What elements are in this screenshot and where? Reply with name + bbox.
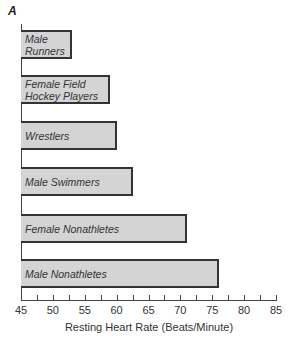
- x-tick-label: 55: [79, 304, 91, 316]
- x-tick: [196, 295, 197, 300]
- x-tick: [228, 295, 229, 300]
- x-tick: [69, 295, 70, 300]
- x-tick-label: 60: [111, 304, 123, 316]
- x-tick-label: 75: [206, 304, 218, 316]
- x-tick: [53, 295, 54, 300]
- bar-label: Wrestlers: [25, 130, 69, 142]
- x-tick: [21, 295, 22, 300]
- x-tick: [101, 295, 102, 300]
- x-tick: [85, 295, 86, 300]
- bar-label: Female Nonathletes: [25, 223, 119, 235]
- x-tick: [276, 295, 277, 300]
- panel-label: A: [8, 4, 17, 18]
- bar: Male Swimmers: [21, 167, 133, 196]
- x-axis-line: [21, 300, 277, 301]
- x-tick-label: 65: [142, 304, 154, 316]
- x-tick: [180, 295, 181, 300]
- x-tick-label: 50: [47, 304, 59, 316]
- bar-label: MaleRunners: [25, 33, 65, 57]
- x-tick: [117, 295, 118, 300]
- bar-label: Male Nonathletes: [25, 268, 107, 280]
- x-tick: [244, 295, 245, 300]
- x-tick: [149, 295, 150, 300]
- bar: Female FieldHockey Players: [21, 75, 110, 104]
- bar: Wrestlers: [21, 121, 117, 150]
- bar-label: Female FieldHockey Players: [25, 78, 98, 102]
- x-tick-label: 85: [270, 304, 282, 316]
- x-tick: [164, 295, 165, 300]
- bar: Male Nonathletes: [21, 259, 219, 288]
- x-tick: [37, 295, 38, 300]
- x-tick-label: 70: [174, 304, 186, 316]
- x-axis-label: Resting Heart Rate (Beats/Minute): [21, 321, 277, 333]
- bar-label: Male Swimmers: [25, 176, 100, 188]
- bar: MaleRunners: [21, 30, 72, 59]
- bar: Female Nonathletes: [21, 214, 187, 243]
- x-tick-label: 45: [15, 304, 27, 316]
- x-tick: [212, 295, 213, 300]
- x-tick-label: 80: [238, 304, 250, 316]
- x-tick: [133, 295, 134, 300]
- x-tick: [260, 295, 261, 300]
